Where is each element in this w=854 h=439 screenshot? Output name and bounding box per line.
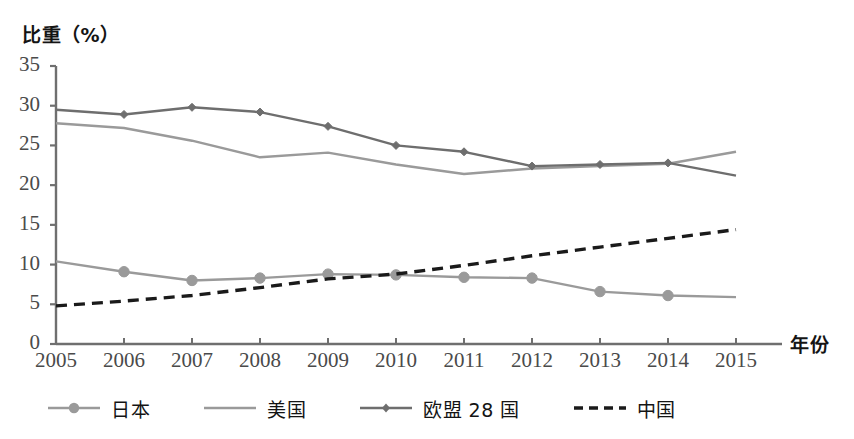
data-point-marker (595, 286, 605, 296)
chart-container: 比重（%） 年份 05101520253035 2005200620072008… (0, 0, 854, 439)
data-point-marker (255, 273, 265, 283)
legend-item-0[interactable]: 日本 (46, 395, 150, 422)
legend-swatch-icon (358, 398, 414, 418)
legend-item-3[interactable]: 中国 (572, 395, 676, 422)
data-point-marker (187, 275, 197, 285)
data-point-marker (459, 272, 469, 282)
data-point-marker (460, 148, 468, 156)
data-point-marker (527, 273, 537, 283)
legend-swatch-icon (202, 398, 258, 418)
plot-area (0, 0, 854, 439)
data-point-marker (664, 159, 672, 167)
legend-label: 中国 (637, 395, 676, 422)
legend-label: 日本 (111, 395, 150, 422)
data-point-marker (324, 122, 332, 130)
legend-item-1[interactable]: 美国 (202, 395, 306, 422)
legend-swatch-icon (572, 398, 628, 418)
data-point-marker (256, 108, 264, 116)
data-point-marker (392, 141, 400, 149)
data-point-marker (120, 110, 128, 118)
data-point-marker (663, 290, 673, 300)
legend-label: 美国 (267, 395, 306, 422)
data-point-marker (119, 267, 129, 277)
legend-item-2[interactable]: 欧盟 28 国 (358, 395, 520, 422)
legend-swatch-icon (46, 398, 102, 418)
chart-legend: 日本美国欧盟 28 国中国 (46, 390, 836, 426)
legend-label: 欧盟 28 国 (423, 395, 520, 422)
data-point-marker (188, 103, 196, 111)
